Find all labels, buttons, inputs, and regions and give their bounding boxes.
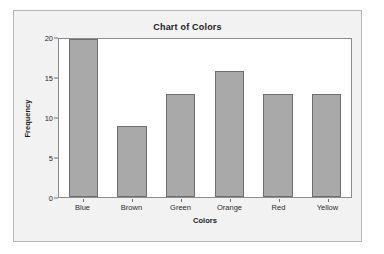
y-tick-label: 0 bbox=[49, 194, 53, 203]
plot-inner bbox=[59, 39, 351, 197]
x-tick-label: Blue bbox=[58, 203, 107, 212]
x-tick-label: Orange bbox=[205, 203, 254, 212]
bar-slot bbox=[156, 39, 205, 197]
y-axis: 05101520 bbox=[14, 38, 58, 198]
bar[interactable] bbox=[166, 94, 195, 197]
x-tick-label: Green bbox=[156, 203, 205, 212]
x-tick-label: Red bbox=[254, 203, 303, 212]
x-tick-mark bbox=[132, 199, 133, 202]
chart-title: Chart of Colors bbox=[14, 22, 361, 32]
x-tick-mark bbox=[328, 199, 329, 202]
bar[interactable] bbox=[215, 71, 244, 197]
x-tick-label: Yellow bbox=[303, 203, 352, 212]
bar-slot bbox=[254, 39, 303, 197]
bar-series bbox=[59, 39, 351, 197]
bar-slot bbox=[59, 39, 108, 197]
x-axis-title: Colors bbox=[58, 216, 352, 225]
x-tick-mark bbox=[279, 199, 280, 202]
x-tick: Orange bbox=[205, 199, 254, 215]
bar-slot bbox=[205, 39, 254, 197]
y-tick-label: 5 bbox=[49, 154, 53, 163]
x-tick-mark bbox=[230, 199, 231, 202]
y-tick-label: 20 bbox=[45, 34, 53, 43]
y-tick-label: 15 bbox=[45, 74, 53, 83]
y-tick-label: 10 bbox=[45, 114, 53, 123]
x-tick-label: Brown bbox=[107, 203, 156, 212]
x-tick: Blue bbox=[58, 199, 107, 215]
x-axis: BlueBrownGreenOrangeRedYellow bbox=[58, 199, 352, 215]
x-tick: Yellow bbox=[303, 199, 352, 215]
x-tick: Green bbox=[156, 199, 205, 215]
bar[interactable] bbox=[117, 126, 146, 197]
bar[interactable] bbox=[263, 94, 292, 197]
bar[interactable] bbox=[312, 94, 341, 197]
x-tick-mark bbox=[181, 199, 182, 202]
bar-slot bbox=[108, 39, 157, 197]
bar-slot bbox=[302, 39, 351, 197]
x-tick-mark bbox=[83, 199, 84, 202]
chart-figure: Chart of Colors Frequency 05101520 BlueB… bbox=[13, 10, 362, 242]
bar[interactable] bbox=[69, 39, 98, 197]
plot-area bbox=[58, 38, 352, 198]
x-tick: Brown bbox=[107, 199, 156, 215]
x-tick: Red bbox=[254, 199, 303, 215]
